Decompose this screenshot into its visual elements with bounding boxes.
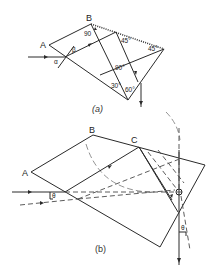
arrow-icon: [28, 190, 32, 194]
label-b: B: [86, 13, 92, 23]
theta-out-label: θ: [181, 224, 185, 231]
theta-out-bracket: [179, 232, 186, 236]
arc-left: [86, 144, 150, 192]
arrow-icon: [139, 101, 143, 105]
arrow-icon: [88, 43, 92, 47]
figure-b: B C A θ θ (b): [12, 112, 205, 265]
arc-top: [166, 112, 180, 140]
arrow-icon: [40, 201, 44, 205]
arrow-icon: [177, 258, 181, 263]
ray-b-refracted: [65, 147, 139, 192]
arrow-icon: [44, 55, 48, 59]
caption-b: (b): [95, 244, 106, 254]
angle-60: 60°: [125, 86, 135, 93]
label-b: B: [89, 125, 95, 135]
theta-in-label: θ: [52, 192, 56, 199]
angle-alpha: α: [54, 58, 58, 65]
angle-90-at-b: 90: [84, 30, 92, 37]
caption-a: (a): [92, 104, 103, 114]
angle-45-top: 45°: [121, 37, 131, 44]
figure-a: B A 90 45° 45° 90° 30° 60° α β (a): [28, 13, 164, 114]
angle-45-right: 45°: [148, 45, 158, 52]
angle-beta: β: [72, 46, 76, 54]
arrow-icon: [94, 27, 97, 30]
dashed-ray-2: [78, 190, 175, 199]
label-a: A: [22, 168, 28, 178]
label-c: C: [131, 135, 138, 145]
dashed-ray-incident: [20, 199, 78, 205]
dashed-exit: [181, 196, 190, 250]
dashed-ray-3: [148, 152, 176, 188]
dashed-ray-4: [158, 150, 184, 183]
label-a: A: [40, 40, 46, 50]
angle-90-center: 90°: [115, 64, 125, 71]
angle-30: 30°: [111, 82, 121, 89]
prism-diagram: B A 90 45° 45° 90° 30° 60° α β (a): [0, 0, 217, 274]
